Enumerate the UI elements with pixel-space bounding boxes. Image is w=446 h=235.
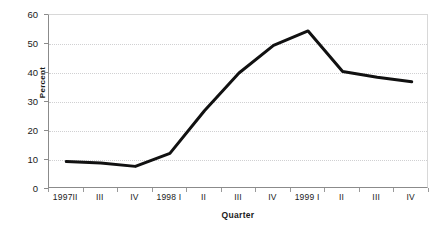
x-tick-label: III [234, 192, 242, 202]
x-tick-mark [48, 188, 49, 192]
y-axis-tick-labels: 0102030405060 [0, 0, 46, 235]
series-line [49, 15, 429, 189]
x-tick-label: IV [130, 192, 138, 202]
y-tick-label: 30 [27, 96, 38, 107]
x-axis-title: Quarter [48, 210, 428, 220]
x-tick-mark [221, 188, 222, 192]
x-tick-label: 1998 I [156, 192, 181, 202]
x-tick-mark [290, 188, 291, 192]
x-tick-label: IV [407, 192, 415, 202]
x-tick-label: III [372, 192, 380, 202]
x-axis-tick-labels: 1997IIIIIIV1998 IIIIIIIV1999 IIIIIIIV [48, 192, 428, 208]
x-tick-label: III [96, 192, 104, 202]
x-tick-mark [359, 188, 360, 192]
x-tick-label: II [201, 192, 206, 202]
y-tick-label: 40 [27, 67, 38, 78]
x-tick-mark [83, 188, 84, 192]
plot-area [48, 14, 428, 188]
x-tick-label: IV [268, 192, 276, 202]
y-tick-label: 60 [27, 9, 38, 20]
line-chart: Percent 0102030405060 1997IIIIIIV1998 II… [0, 0, 446, 235]
x-tick-mark [186, 188, 187, 192]
series-polyline [66, 31, 411, 166]
x-tick-mark [152, 188, 153, 192]
x-tick-mark [324, 188, 325, 192]
x-tick-label: 1997II [53, 192, 78, 202]
x-tick-label: II [339, 192, 344, 202]
x-tick-mark [393, 188, 394, 192]
y-tick-label: 50 [27, 38, 38, 49]
x-tick-mark [255, 188, 256, 192]
x-tick-mark [117, 188, 118, 192]
y-tick-label: 0 [33, 183, 38, 194]
x-tick-label: 1999 I [295, 192, 320, 202]
x-tick-mark [428, 188, 429, 192]
y-tick-label: 10 [27, 154, 38, 165]
y-tick-label: 20 [27, 125, 38, 136]
